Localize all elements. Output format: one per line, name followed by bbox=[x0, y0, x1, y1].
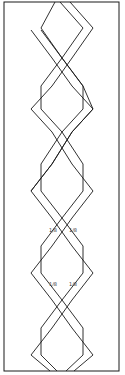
strand-a-outer bbox=[31, 30, 93, 371]
angle-annotation: 1/8 bbox=[49, 282, 57, 287]
strand-b-mirror-2 bbox=[41, 2, 83, 371]
angle-annotation: 1/8 bbox=[69, 282, 77, 287]
braid-pattern-drawing bbox=[0, 0, 125, 375]
angle-annotation: 1/8 bbox=[49, 228, 57, 233]
strand-b-outer bbox=[41, 2, 93, 109]
angle-annotation: 1/8 bbox=[69, 228, 77, 233]
zigzag-strands bbox=[31, 2, 93, 371]
